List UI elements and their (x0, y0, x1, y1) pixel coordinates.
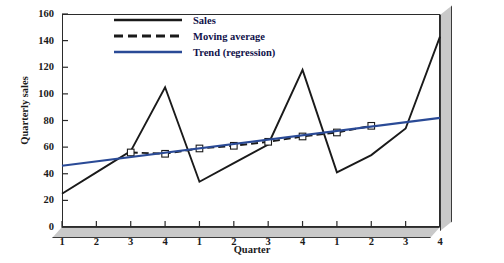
series-line-sales (62, 37, 440, 194)
y-axis-tick-label: 140 (20, 36, 54, 47)
y-axis-tick-label: 0 (20, 222, 54, 233)
y-axis-title: Quarterly sales (19, 51, 30, 171)
legend-item[interactable]: Trend (regression) (112, 44, 275, 60)
chart-container: 020406080100120140160 123412341234 Quart… (0, 0, 504, 263)
legend-item[interactable]: Moving average (112, 28, 275, 44)
solid-black-line-key (112, 13, 184, 27)
chart-legend: SalesMoving averageTrend (regression) (112, 12, 275, 60)
series-line-trend-regression (62, 118, 440, 166)
series-marker-moving-average (127, 149, 134, 156)
data-series-group (62, 37, 440, 194)
x-axis-title: Quarter (0, 244, 504, 255)
legend-item-label: Moving average (193, 31, 265, 42)
legend-item-label: Sales (193, 15, 216, 26)
y-axis-tick-label: 20 (20, 195, 54, 206)
solid-blue-line-key (112, 45, 184, 59)
dashed-black-line-key (112, 29, 184, 43)
y-axis-tick-label: 160 (20, 9, 54, 20)
legend-item[interactable]: Sales (112, 12, 275, 28)
legend-item-label: Trend (regression) (193, 47, 275, 58)
